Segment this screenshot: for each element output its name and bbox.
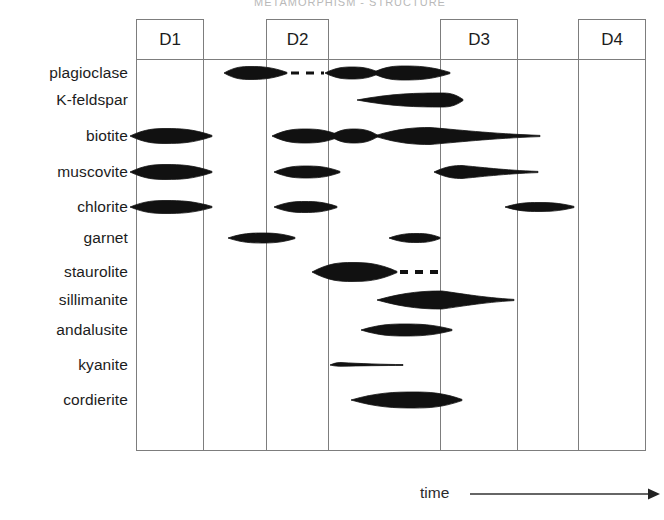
series-sillimanite — [377, 291, 514, 309]
figure-canvas: METAMORPHISM - STRUCTURE plagioclaseK-fe… — [0, 0, 664, 520]
series-staurolite — [312, 263, 441, 282]
segment-lens-0 — [130, 165, 212, 180]
arrow-right-icon — [648, 489, 660, 500]
time-axis-label: time — [420, 484, 449, 502]
series-andalusite — [361, 324, 452, 336]
range-chart-svg — [0, 0, 664, 520]
segment-lens-0 — [224, 67, 287, 80]
segment-lens-0 — [228, 233, 295, 243]
series-cordierite — [351, 392, 462, 408]
segment-lens-2 — [434, 166, 538, 179]
time-axis-arrow — [470, 489, 660, 500]
series-biotite — [130, 128, 540, 145]
segment-lens-2 — [505, 203, 574, 212]
segment-lens-0 — [357, 93, 463, 107]
deformation-event-box-d2: D2 — [266, 19, 329, 60]
segment-lens-0 — [130, 129, 212, 144]
chart-frame — [137, 60, 646, 451]
series-K-feldspar — [357, 93, 463, 107]
segment-lens-2 — [330, 129, 378, 143]
series-kyanite — [330, 363, 403, 367]
segment-lens-1 — [274, 166, 340, 178]
series-chlorite — [130, 201, 574, 214]
series-garnet — [228, 233, 295, 243]
segment-lens-0 — [389, 234, 440, 243]
segment-lens-0 — [377, 291, 514, 309]
segment-lens-0 — [130, 201, 212, 214]
deformation-event-box-d1: D1 — [136, 19, 204, 60]
series-muscovite — [130, 165, 538, 180]
deformation-event-box-d4: D4 — [578, 19, 646, 60]
segment-lens-3 — [374, 128, 540, 145]
segment-lens-2 — [325, 67, 379, 79]
segment-lens-3 — [372, 66, 450, 80]
segment-lens-0 — [361, 324, 452, 336]
deformation-event-box-d3: D3 — [440, 19, 518, 60]
segment-lens-0 — [312, 263, 397, 282]
segment-lens-0 — [351, 392, 462, 408]
segment-lens-0 — [330, 363, 403, 367]
series-garnet-2 — [389, 234, 440, 243]
chart-gridlines — [137, 59, 646, 451]
segment-lens-1 — [274, 202, 337, 213]
series-plagioclase — [224, 66, 450, 80]
chart-series-group — [130, 66, 574, 408]
